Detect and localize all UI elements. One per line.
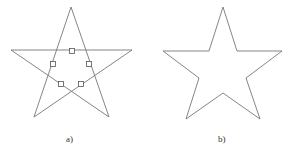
pentagram-star-a xyxy=(11,7,132,117)
marker-square xyxy=(87,62,92,67)
star-outline-b xyxy=(163,7,282,119)
marker-square xyxy=(51,62,56,67)
marker-square xyxy=(70,49,75,54)
figure-canvas xyxy=(0,0,292,153)
panel-b-label: b) xyxy=(218,134,226,144)
marker-square xyxy=(79,82,84,87)
panel-a-label: a) xyxy=(66,134,73,144)
marker-square xyxy=(59,82,64,87)
